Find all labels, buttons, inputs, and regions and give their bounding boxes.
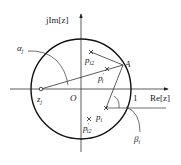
real-axis-label: Re[z] <box>150 93 170 103</box>
unit-label: 1 <box>133 93 138 103</box>
pole-pi2-prime-icon <box>87 117 91 121</box>
alpha-label: αj <box>17 43 24 54</box>
pole-pi2-label: pi2 <box>84 55 94 66</box>
vector-zj-to-A <box>41 65 123 89</box>
vector-pi2-to-A <box>91 52 123 65</box>
beta-label: βi <box>133 134 140 145</box>
zero-zj-label: zj <box>36 94 43 105</box>
vector-pi-to-A <box>106 65 123 108</box>
beta-angle-arc <box>114 96 119 108</box>
zero-marker <box>39 87 43 91</box>
pole-pi-prime-label: p'i <box>97 72 105 84</box>
pole-pi2-prime-label: p'i2 <box>82 122 91 134</box>
pole-pi2-icon <box>89 50 93 54</box>
alpha-angle-arc <box>28 51 68 85</box>
z-plane-diagram: jIm[z] Re[z] O 1 A zj pi2 p'i pi p'i2 αj… <box>0 0 181 165</box>
pole-pi-label: pi <box>95 112 103 123</box>
beta-leader <box>126 107 140 132</box>
origin-label: O <box>70 93 77 103</box>
point-A-label: A <box>124 59 131 69</box>
imag-axis-label: jIm[z] <box>45 15 69 25</box>
